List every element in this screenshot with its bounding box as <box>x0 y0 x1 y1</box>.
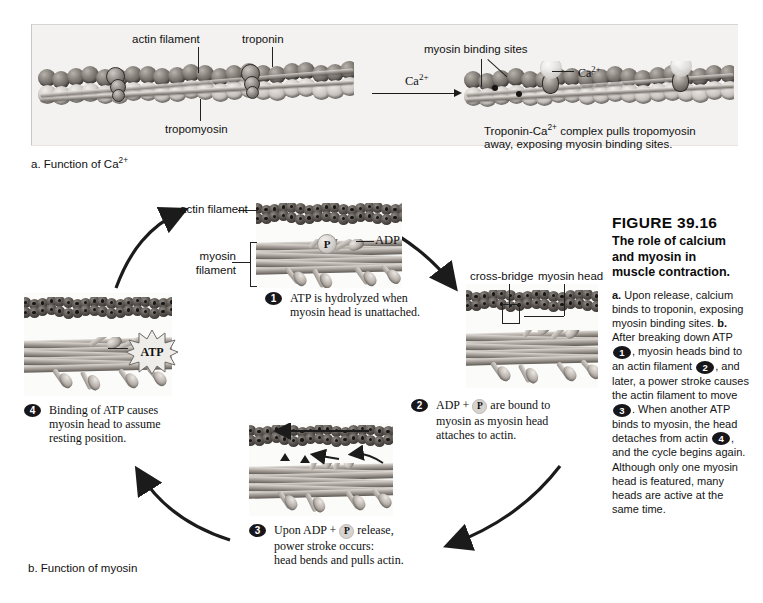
leader-myosin-filament-bracket-bot <box>250 286 257 287</box>
step2-actin-rows <box>466 290 598 316</box>
leader-actin-filament-a <box>198 47 199 73</box>
leader-myosin-head-2 <box>564 284 565 316</box>
actin-globule-small <box>398 211 402 222</box>
caption-badge-4: 4 <box>712 432 730 445</box>
myosin-head-shape <box>57 371 74 390</box>
leader-cross-bridge-box <box>502 304 520 324</box>
step2-myosin-filament <box>466 330 598 388</box>
step1-actin-rows <box>256 203 402 229</box>
leader-myosin-filament-bracket-top <box>250 242 257 243</box>
step-3-caption: Upon ADP + P release, power stroke occur… <box>274 523 474 567</box>
actin-globule-small <box>166 305 172 316</box>
step-1-badge: 1 <box>265 292 282 305</box>
label-actin-filament-a: actin filament <box>132 33 200 46</box>
caption-badge-1: 1 <box>613 346 631 359</box>
cycle-arrow-4-to-1 <box>116 212 180 288</box>
label-adp-step1: ADP <box>375 234 400 247</box>
figure-number: FIGURE 39.16 <box>612 214 752 232</box>
label-myosin-binding-sites: myosin binding sites <box>424 43 528 56</box>
panel-a-result-text: Troponin-Ca2+ complex pulls tropomyosin … <box>484 121 734 152</box>
leader-binding-site-1 <box>481 59 482 87</box>
panel-a-part-label: a. Function of Ca2+ <box>31 154 128 171</box>
cycle-arrow-3-to-4 <box>140 474 230 540</box>
step-3-power-stroke-arrows <box>249 423 393 516</box>
reaction-arrow-shaft <box>372 93 456 94</box>
caption-b-seg5: , and the cycle begins again. Although o… <box>612 432 745 515</box>
panel-a-calcium-function: actin filament troponin tropomyosin Ca2+… <box>31 24 738 145</box>
label-myosin-filament-b: myosin filament <box>178 249 236 277</box>
phosphate-token-step3-caption: P <box>339 524 354 539</box>
label-actin-filament-b: actin filament <box>180 203 248 216</box>
reaction-arrow-head <box>454 89 462 97</box>
phosphate-token-step2-caption: P <box>472 399 487 414</box>
panel-b-part-label: b. Function of myosin <box>28 562 137 575</box>
caption-badge-3: 3 <box>613 404 631 417</box>
caption-b-seg1: After breaking down ATP <box>612 331 733 343</box>
step4-actin-rows <box>24 297 172 323</box>
step-1-caption: ATP is hydrolyzed when myosin head is un… <box>290 291 490 319</box>
leader-myosin-filament-bracket <box>250 242 251 286</box>
label-calcium-ion: Ca2+ <box>578 63 601 80</box>
myosin-head-shape <box>495 364 512 383</box>
figure-title: The role of calcium and myosin in muscle… <box>612 234 752 281</box>
figure-caption-body: a. Upon release, calcium binds to tropon… <box>612 288 752 517</box>
myosin-head-shape <box>561 364 578 383</box>
figure-caption-block: FIGURE 39.16 The role of calcium and myo… <box>612 214 752 516</box>
step-2-badge: 2 <box>411 399 428 412</box>
myosin-binding-site-2 <box>516 91 522 97</box>
step-4-caption: Binding of ATP causes myosin head to ass… <box>49 403 239 445</box>
leader-myosin-head-2b <box>524 316 564 317</box>
troponin-complex-2c <box>246 86 259 99</box>
figure-39-16: actin filament troponin tropomyosin Ca2+… <box>0 0 763 603</box>
label-tropomyosin-a: tropomyosin <box>165 123 228 136</box>
label-troponin-a: troponin <box>242 33 284 46</box>
caption-b-prefix: b. <box>717 317 727 329</box>
troponin-complex-1c <box>112 89 125 102</box>
caption-badge-2: 2 <box>696 361 714 374</box>
actin-filament-relaxed <box>38 61 354 117</box>
phosphate-token-step1: P <box>317 234 337 254</box>
step-2-panel <box>466 284 598 388</box>
caption-a-prefix: a. <box>612 289 621 301</box>
leader-atp-step4 <box>108 348 128 349</box>
label-myosin-head: myosin head <box>538 270 603 283</box>
step-2-caption: ADP + P are bound to myosin as myosin he… <box>436 398 616 442</box>
atp-burst-step4: ATP <box>126 330 178 374</box>
leader-calcium-ion <box>552 71 574 72</box>
label-cross-bridge: cross-bridge <box>470 270 533 283</box>
reaction-arrow-label-calcium: Ca2+ <box>405 71 428 88</box>
leader-tropomyosin-a <box>200 99 201 121</box>
step-3-badge: 3 <box>249 524 266 537</box>
leader-adp-step1 <box>356 241 374 242</box>
step-4-badge: 4 <box>24 404 41 417</box>
myosin-binding-site-1 <box>492 85 498 91</box>
actin-globule-small <box>591 301 598 312</box>
leader-troponin-a <box>272 47 273 67</box>
atp-burst-label: ATP <box>126 330 178 374</box>
